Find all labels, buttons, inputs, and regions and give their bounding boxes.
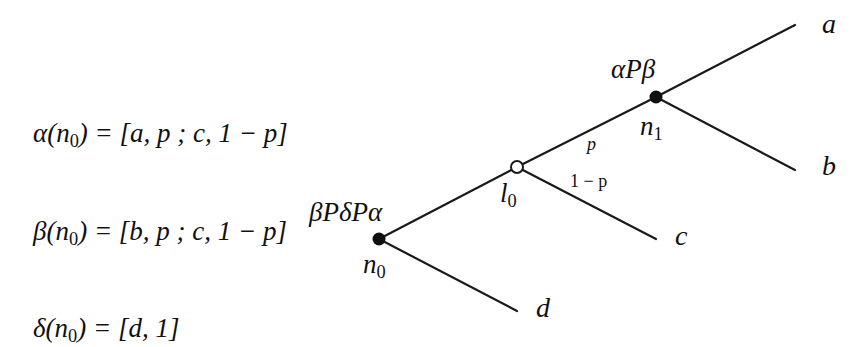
outcome-b: b [822,152,836,180]
formula-beta-sub: 0 [69,229,78,249]
decision-node-n0 [373,233,386,246]
n1-sub: 1 [654,124,663,144]
n0-name: n [363,249,377,279]
l0-node-label: l0 [500,180,517,207]
outcome-a: a [822,10,836,38]
n0-preference-label: βPδPα [309,199,382,226]
edge-n1-a [656,25,795,97]
edge-l0-n1 [517,97,656,167]
formula-delta-sub: 0 [68,326,77,346]
formula-delta-lhs: δ(n [33,313,68,343]
n1-preference-label: αPβ [611,56,655,83]
edge-n0-d [379,239,517,311]
formula-alpha-rhs: ) = [a, p ; c, 1 − p] [79,118,288,148]
n0-node-label: n0 [363,251,386,278]
n0-sub: 0 [377,262,386,282]
formula-alpha-lhs: α(n [33,118,70,148]
n1-name: n [640,111,654,141]
n1-node-label: n1 [640,113,663,140]
l0-name: l [500,178,508,208]
lottery-node-l0 [511,161,523,173]
prob-label-p: p [587,135,596,153]
outcome-d: d [536,294,550,322]
formula-delta-rhs: ) = [d, 1] [77,313,179,343]
formula-beta: β(n0) = [b, p ; c, 1 − p] [33,215,288,248]
preference-formulas: α(n0) = [a, p ; c, 1 − p] β(n0) = [b, p … [33,52,288,347]
prob-label-lower-text: 1 − p [570,171,607,191]
edge-n0-l0 [379,167,517,239]
l0-sub: 0 [508,191,517,211]
prob-label-1-minus-p: 1 − p [570,172,607,190]
decision-node-n1 [650,91,663,104]
formula-alpha: α(n0) = [a, p ; c, 1 − p] [33,117,288,150]
formula-beta-rhs: ) = [b, p ; c, 1 − p] [78,216,287,246]
formula-delta: δ(n0) = [d, 1] [33,312,288,345]
formula-alpha-sub: 0 [70,131,79,151]
formula-beta-lhs: β(n [33,216,69,246]
outcome-c: c [675,222,687,250]
edge-n1-b [656,97,795,170]
